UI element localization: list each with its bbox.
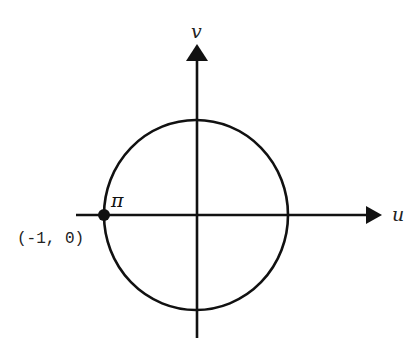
u-axis-arrow-icon (366, 206, 382, 224)
u-axis-label: u (392, 203, 404, 225)
v-axis-arrow-icon (186, 44, 208, 61)
unit-circle-diagram: v u π (-1, 0) (0, 0, 417, 349)
point-coordinates-label: (-1, 0) (17, 230, 84, 248)
point-angle-label: π (110, 189, 124, 211)
point-minus-one-zero (98, 209, 110, 221)
v-axis-label: v (191, 20, 202, 42)
